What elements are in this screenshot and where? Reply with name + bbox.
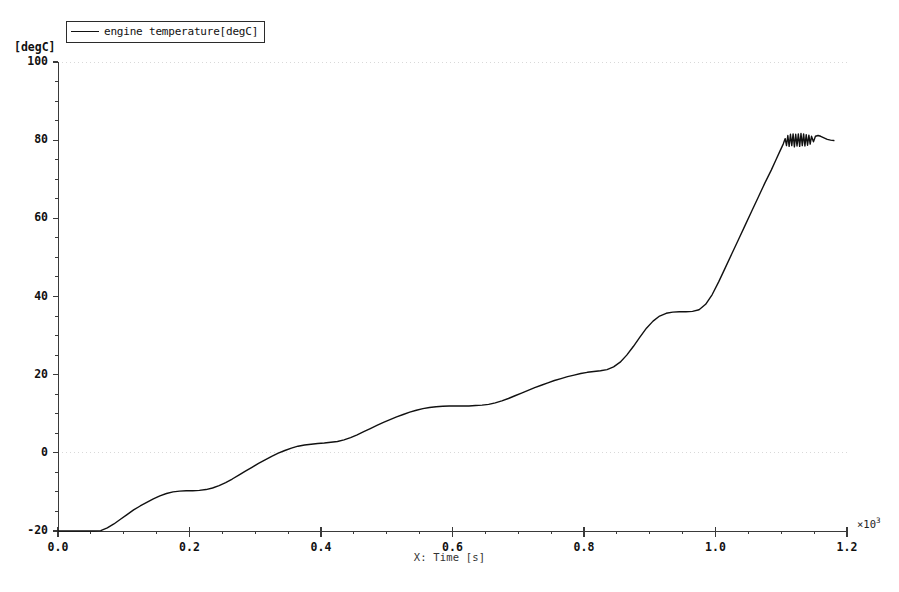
chart-container: [degC] engine temperature[degC] 10080604… (0, 0, 899, 592)
plot-canvas (0, 0, 899, 592)
y-tick-label: 80 (6, 132, 48, 146)
y-tick-label: 40 (6, 289, 48, 303)
x-multiplier-base: ×10 (857, 518, 876, 530)
series-line-0 (58, 134, 834, 531)
gridlines (58, 62, 847, 453)
y-tick-label: 20 (6, 367, 48, 381)
y-tick-label: -20 (6, 523, 48, 537)
axis-lines (58, 62, 847, 531)
series-layer (58, 134, 834, 531)
x-axis-title: X: Time [s] (0, 551, 899, 563)
y-tick-label: 100 (6, 54, 48, 68)
x-axis-multiplier: ×103 (857, 516, 880, 530)
tick-marks (53, 62, 847, 537)
y-tick-label: 60 (6, 210, 48, 224)
y-tick-label: 0 (6, 445, 48, 459)
x-multiplier-exponent: 3 (876, 516, 881, 525)
